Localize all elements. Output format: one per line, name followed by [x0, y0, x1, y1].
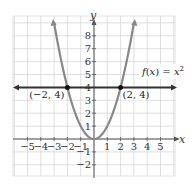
svg-text:3: 3	[131, 141, 137, 152]
svg-text:1: 1	[85, 121, 91, 132]
svg-text:6: 6	[85, 56, 91, 67]
svg-text:−1: −1	[76, 146, 91, 157]
svg-text:5: 5	[157, 141, 163, 152]
svg-text:(−2, 4): (−2, 4)	[29, 89, 64, 100]
svg-text:8: 8	[85, 30, 91, 41]
svg-text:f(x) = x2: f(x) = x2	[141, 65, 184, 77]
parabola-chart: xy −5−4−3−2−11234587654321−1−2 (−2, 4)(2…	[0, 0, 196, 187]
svg-text:7: 7	[85, 43, 91, 54]
svg-text:2: 2	[117, 141, 123, 152]
svg-text:3: 3	[85, 95, 91, 106]
svg-text:(2, 4): (2, 4)	[123, 89, 150, 100]
x-axis-label: x	[179, 133, 186, 146]
function-label: f(x) = x2	[139, 64, 185, 79]
svg-text:2: 2	[85, 108, 91, 119]
intersection-point	[65, 85, 70, 90]
svg-text:1: 1	[104, 141, 110, 152]
svg-text:5: 5	[85, 69, 91, 80]
svg-text:−2: −2	[76, 159, 91, 170]
y-axis-label: y	[89, 9, 97, 22]
svg-text:4: 4	[144, 141, 150, 152]
